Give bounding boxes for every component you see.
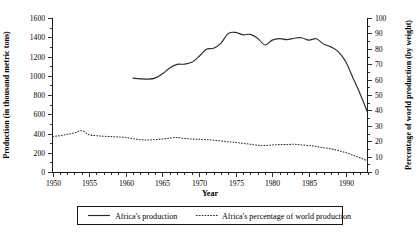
right-tick-label: 30 xyxy=(375,122,383,131)
left-tick-label: 1200 xyxy=(30,53,45,62)
right-axis-title: Percentage of world production (by weigh… xyxy=(404,20,413,170)
left-tick-label: 0 xyxy=(41,168,45,177)
left-axis-group: 02004006008001000120014001600 Production… xyxy=(2,14,53,177)
left-tick-label: 1000 xyxy=(30,72,45,81)
x-tick-label: 1960 xyxy=(119,179,134,188)
x-axis-group: 195019551960196519701975198019851990 Yea… xyxy=(46,173,369,199)
legend-label-production: Africa's production xyxy=(115,212,177,221)
right-tick-label: 70 xyxy=(375,60,383,69)
x-axis-tick-labels: 195019551960196519701975198019851990 xyxy=(46,179,354,188)
left-tick-label: 800 xyxy=(34,91,46,100)
left-axis-tick-labels: 02004006008001000120014001600 xyxy=(30,14,45,177)
right-tick-label: 0 xyxy=(375,168,379,177)
left-tick-label: 400 xyxy=(34,130,46,139)
series-africas-production xyxy=(133,32,367,112)
right-tick-label: 20 xyxy=(375,137,383,146)
legend-label-percentage: Africa's percentage of world production xyxy=(222,212,351,221)
x-axis-title: Year xyxy=(202,189,219,198)
x-tick-label: 1970 xyxy=(192,179,207,188)
x-tick-label: 1985 xyxy=(302,179,317,188)
right-tick-label: 50 xyxy=(375,91,383,100)
left-tick-label: 1400 xyxy=(30,33,45,42)
x-tick-label: 1980 xyxy=(265,179,280,188)
series-africas-percentage-of-world-production xyxy=(53,131,368,161)
right-tick-label: 100 xyxy=(375,14,387,23)
right-axis-ticks xyxy=(368,19,373,173)
x-axis-ticks xyxy=(54,173,369,178)
right-tick-label: 90 xyxy=(375,29,383,38)
x-tick-label: 1955 xyxy=(82,179,97,188)
right-tick-label: 60 xyxy=(375,76,383,85)
plot-series-group xyxy=(53,32,368,161)
left-axis-title: Production (in thousand metric tons) xyxy=(2,31,11,159)
left-axis-ticks xyxy=(48,19,53,173)
x-tick-label: 1965 xyxy=(155,179,170,188)
left-tick-label: 600 xyxy=(34,110,46,119)
x-tick-label: 1975 xyxy=(229,179,244,188)
right-tick-label: 80 xyxy=(375,45,383,54)
x-tick-label: 1950 xyxy=(46,179,61,188)
left-tick-label: 200 xyxy=(34,149,46,158)
left-tick-label: 1600 xyxy=(30,14,45,23)
right-axis-tick-labels: 0102030405060708090100 xyxy=(375,14,387,177)
right-axis-group: 0102030405060708090100 Percentage of wor… xyxy=(368,14,414,177)
x-tick-label: 1990 xyxy=(339,179,354,188)
right-tick-label: 40 xyxy=(375,106,383,115)
line-chart: 02004006008001000120014001600 Production… xyxy=(0,0,418,236)
legend: Africa's production Africa's percentage … xyxy=(78,207,352,225)
right-tick-label: 10 xyxy=(375,153,383,162)
chart-container: 02004006008001000120014001600 Production… xyxy=(0,0,418,236)
